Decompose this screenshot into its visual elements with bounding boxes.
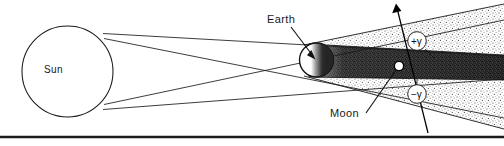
moon-body [394, 61, 403, 70]
sun-label: Sun [44, 64, 63, 75]
sun-body [22, 26, 113, 117]
eclipse-diagram [0, 0, 504, 146]
eclipse-geometry-figure: Sun Earth Moon +γ −γ [0, 0, 504, 146]
minus-gamma-label: −γ [411, 89, 422, 100]
plus-gamma-label: +γ [411, 36, 422, 47]
earth-label: Earth [267, 13, 295, 25]
moon-label: Moon [330, 107, 359, 119]
earth-body [300, 43, 334, 77]
